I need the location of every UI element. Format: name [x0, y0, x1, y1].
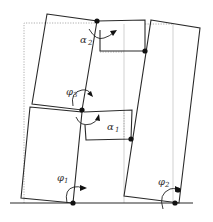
svg-text:3: 3	[73, 91, 78, 99]
svg-text:α: α	[107, 121, 114, 132]
top-connector	[97, 20, 145, 51]
phi2-label: φ 2	[158, 176, 170, 189]
svg-text:φ: φ	[158, 176, 165, 187]
phi3-label: φ 3	[66, 86, 78, 99]
phi1-label: φ 1	[57, 172, 68, 185]
joint-mid-right	[128, 136, 133, 141]
alpha2-label: α 2	[80, 34, 93, 47]
joint-top-right	[142, 48, 147, 53]
reference-frame	[24, 23, 173, 203]
joint-mid-left	[79, 107, 84, 112]
joint-base-left	[70, 200, 75, 205]
left-lower-block	[21, 107, 82, 203]
joint-base-right	[172, 200, 177, 205]
svg-text:1: 1	[64, 177, 68, 185]
svg-text:1: 1	[115, 126, 119, 134]
mechanism-diagram: α 2 φ 3 α 1 φ 1 φ 2	[0, 0, 213, 222]
svg-text:φ: φ	[57, 172, 64, 183]
svg-text:2: 2	[164, 181, 170, 189]
joint-top-left	[94, 18, 99, 23]
svg-text:φ: φ	[66, 86, 73, 97]
svg-text:α: α	[80, 34, 87, 45]
alpha1-label: α 1	[107, 121, 119, 134]
svg-text:2: 2	[87, 39, 93, 47]
left-upper-block	[32, 14, 97, 110]
